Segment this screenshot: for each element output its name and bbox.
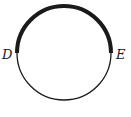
minor-arc-lower — [17, 53, 111, 100]
point-label-d: D — [1, 47, 13, 62]
circle-diagram: D E — [0, 0, 131, 117]
point-label-e: E — [115, 47, 126, 62]
major-arc-upper-highlighted — [17, 6, 111, 53]
